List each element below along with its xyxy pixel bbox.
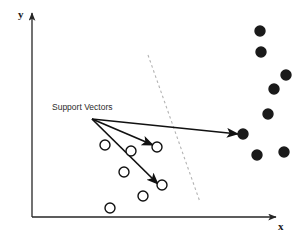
filled-circle-point [255,26,265,36]
x-axis-label: x [278,220,284,232]
open-circle-point [100,140,110,150]
filled-circle-point [252,150,262,160]
filled-circle-points [238,26,291,160]
svm-diagram-figure: y x Support Vectors [0,0,305,244]
filled-circle-point [263,109,273,119]
open-circle-point [152,142,162,152]
filled-circle-point [281,70,291,80]
y-axis-label: y [18,8,24,20]
support-vectors-label: Support Vectors [52,102,112,112]
filled-circle-point [269,84,279,94]
filled-circle-point [238,129,248,139]
filled-circle-point [279,147,289,157]
open-circle-point [157,180,167,190]
open-circle-point [105,203,115,213]
open-circle-point [126,146,136,156]
axes [32,13,276,217]
diagram-canvas: y x Support Vectors [0,0,305,244]
support-vector-arrows [92,119,238,184]
open-circle-point [138,191,148,201]
open-circle-point [119,167,129,177]
open-circle-points [100,140,167,213]
support-vector-arrow-3 [92,119,238,134]
filled-circle-point [256,47,266,57]
